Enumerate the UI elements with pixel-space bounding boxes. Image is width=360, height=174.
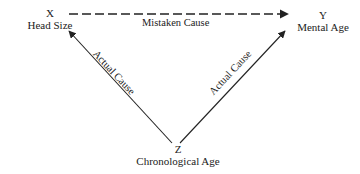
edge-label-mistaken-cause: Mistaken Cause [142,17,209,28]
node-x-label: Head Size [20,19,80,31]
node-x: X Head Size [20,7,80,31]
node-y-label: Mental Age [288,21,358,33]
node-z: Z Chronological Age [126,143,230,167]
node-z-letter: Z [126,143,230,155]
edge-z-to-y [180,31,285,143]
node-y-letter: Y [288,9,358,21]
node-y: Y Mental Age [288,9,358,33]
node-z-label: Chronological Age [126,155,230,167]
node-x-letter: X [20,7,80,19]
